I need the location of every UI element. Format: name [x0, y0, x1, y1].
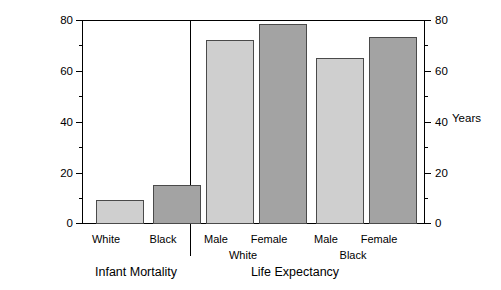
y-tick-label-right-0: 0 — [435, 218, 475, 230]
y-tick-left-0 — [76, 223, 82, 224]
y-tick-label-left-80: 80 — [33, 15, 73, 27]
y-tick-left-70 — [79, 45, 82, 46]
y-tick-label-right-40: 40 — [435, 117, 475, 129]
y-tick-label-left-20: 20 — [33, 168, 73, 180]
y-tick-label-left-0: 0 — [33, 218, 73, 230]
y-tick-right-10 — [425, 198, 428, 199]
y-tick-label-left-60: 60 — [33, 66, 73, 78]
y-tick-left-80 — [76, 20, 82, 21]
y-tick-right-40 — [425, 122, 431, 123]
bar-life-expectancy-black-female — [369, 37, 417, 224]
x-group-label-black: Black — [318, 250, 388, 261]
plot-area: 80 60 40 20 0 80 60 40 20 0 — [82, 20, 425, 224]
y-tick-left-60 — [76, 71, 82, 72]
y-tick-label-right-60: 60 — [435, 66, 475, 78]
y-tick-left-10 — [79, 198, 82, 199]
y-tick-right-70 — [425, 45, 428, 46]
panel-title-life-expectancy: Life Expectancy — [215, 266, 375, 279]
bar-infant-mortality-white — [96, 200, 144, 224]
y-tick-label-left-40: 40 — [33, 117, 73, 129]
panel-title-infant-mortality: Infant Mortality — [81, 266, 191, 279]
y-tick-right-60 — [425, 71, 431, 72]
plot-frame-top — [82, 20, 425, 21]
y-tick-left-30 — [79, 147, 82, 148]
y-tick-right-50 — [425, 96, 428, 97]
y-axis-left-line — [82, 20, 83, 224]
y-tick-right-20 — [425, 173, 431, 174]
y-tick-right-80 — [425, 20, 431, 21]
bar-life-expectancy-black-male — [316, 58, 364, 224]
bar-life-expectancy-white-male — [206, 40, 254, 224]
y-tick-left-50 — [79, 96, 82, 97]
y-tick-right-0 — [425, 223, 431, 224]
bar-infant-mortality-black — [153, 185, 201, 224]
x-group-label-white: White — [208, 250, 278, 261]
bar-life-expectancy-white-female — [259, 24, 307, 224]
y-tick-left-20 — [76, 173, 82, 174]
y-tick-right-30 — [425, 147, 428, 148]
y-tick-left-40 — [76, 122, 82, 123]
y-tick-label-right-20: 20 — [435, 168, 475, 180]
bar-chart: Infant Deaths Per 1000 Births Years 80 — [0, 0, 501, 290]
y-tick-label-right-80: 80 — [435, 15, 475, 27]
x-label-life-expectancy-black-female: Female — [344, 234, 414, 245]
